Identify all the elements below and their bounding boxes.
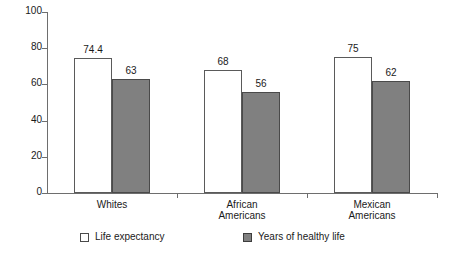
y-tick-label: 100 — [25, 5, 42, 17]
x-tick-mark — [437, 193, 438, 198]
x-tick-mark — [177, 193, 178, 198]
bar: 68 — [204, 70, 242, 193]
plot-area: 020406080100 74.46368567562 — [47, 12, 437, 193]
bar-chart: 020406080100 74.46368567562 WhitesAfrica… — [0, 0, 453, 255]
bar-value-label: 75 — [347, 43, 358, 55]
x-axis-category-label: African Americans — [177, 199, 307, 221]
chart-legend: Life expectancyYears of healthy life — [0, 230, 453, 248]
y-tick-label: 40 — [31, 114, 42, 126]
y-tick-mark — [42, 121, 47, 122]
x-tick-mark — [307, 193, 308, 198]
x-axis-category-label: Mexican Americans — [307, 199, 437, 221]
bar: 63 — [112, 79, 150, 193]
y-tick-label: 20 — [31, 150, 42, 162]
bar-value-label: 63 — [125, 65, 136, 77]
legend-entry[interactable]: Life expectancy — [80, 230, 165, 244]
bar-value-label: 56 — [255, 78, 266, 90]
legend-label: Life expectancy — [95, 231, 165, 243]
y-tick-mark — [42, 84, 47, 85]
legend-label: Years of healthy life — [258, 231, 345, 243]
x-axis-category-label: Whites — [47, 199, 177, 210]
y-tick-mark — [42, 12, 47, 13]
bar-value-label: 74.4 — [83, 44, 102, 56]
bar: 75 — [334, 57, 372, 193]
x-axis-line — [47, 193, 437, 194]
y-tick-mark — [42, 48, 47, 49]
bar: 62 — [372, 81, 410, 193]
legend-entry[interactable]: Years of healthy life — [243, 230, 345, 244]
y-tick-mark — [42, 193, 47, 194]
y-tick-label: 60 — [31, 77, 42, 89]
gray-square-swatch — [243, 233, 252, 242]
bar: 74.4 — [74, 58, 112, 193]
y-tick-label: 80 — [31, 41, 42, 53]
y-tick-label: 0 — [36, 186, 42, 198]
bar-value-label: 68 — [217, 56, 228, 68]
y-axis-line — [47, 12, 48, 193]
y-tick-mark — [42, 157, 47, 158]
bar-value-label: 62 — [385, 67, 396, 79]
bar: 56 — [242, 92, 280, 193]
white-square-swatch — [80, 233, 89, 242]
